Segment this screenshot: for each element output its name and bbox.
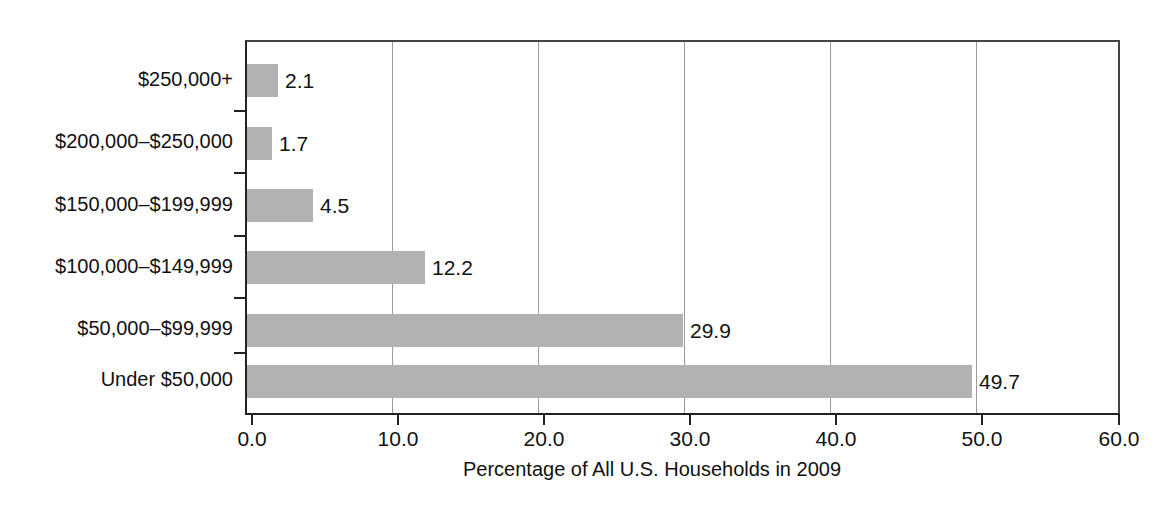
x-axis-tick-label: 20.0: [524, 427, 565, 451]
x-axis-tick-label: 10.0: [378, 427, 419, 451]
bar: [247, 251, 425, 284]
x-axis-tick-label: 40.0: [816, 427, 857, 451]
x-axis-title: Percentage of All U.S. Households in 200…: [0, 458, 1174, 481]
y-axis-label: $200,000–$250,000: [0, 130, 233, 153]
x-axis-tick: [251, 414, 253, 425]
gridline-10: [392, 42, 393, 413]
bar: [247, 365, 972, 398]
x-axis-tick: [981, 414, 983, 425]
y-axis-label: $100,000–$149,999: [0, 255, 233, 278]
y-axis-label: $150,000–$199,999: [0, 193, 233, 216]
bar-value-label: 2.1: [278, 69, 314, 93]
gridline-50: [976, 42, 977, 413]
x-axis-tick-label: 50.0: [962, 427, 1003, 451]
bar-value-label: 4.5: [313, 194, 349, 218]
x-axis-tick-label: 30.0: [670, 427, 711, 451]
bar-value-label: 1.7: [272, 132, 308, 156]
bar-value-label: 12.2: [425, 256, 473, 280]
x-axis-tick: [1118, 414, 1120, 425]
y-axis-label: $50,000–$99,999: [0, 317, 233, 340]
x-axis-tick: [397, 414, 399, 425]
bar-value-label: 49.7: [972, 370, 1020, 394]
gridline-20: [538, 42, 539, 413]
plot-area: 2.1 1.7 4.5 12.2 29.9 49.7: [245, 40, 1120, 415]
x-axis-tick: [689, 414, 691, 425]
y-axis-label: $250,000+: [0, 68, 233, 91]
y-axis-label: Under $50,000: [0, 368, 233, 391]
bar: [247, 189, 313, 222]
bar-chart-figure: $250,000+ $200,000–$250,000 $150,000–$19…: [0, 0, 1174, 512]
x-axis-tick-label: 0.0: [237, 427, 266, 451]
x-axis-title-text: Percentage of All U.S. Households in 200…: [463, 458, 841, 481]
bar-value-label: 29.9: [683, 319, 731, 343]
x-axis-tick-label: 60.0: [1099, 427, 1140, 451]
gridline-40: [830, 42, 831, 413]
x-axis-tick: [543, 414, 545, 425]
x-axis-tick: [835, 414, 837, 425]
gridline-30: [684, 42, 685, 413]
bar: [247, 64, 278, 97]
bar: [247, 127, 272, 160]
y-axis-labels: $250,000+ $200,000–$250,000 $150,000–$19…: [0, 0, 233, 512]
bar: [247, 314, 683, 347]
